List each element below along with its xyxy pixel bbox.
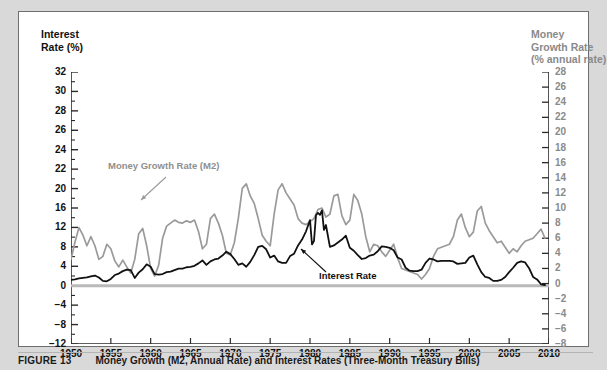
right-tick-12: 12: [555, 187, 589, 198]
left-tick-0: 0: [32, 280, 66, 291]
right-tick-10: 10: [555, 202, 589, 213]
axis-group: [71, 72, 549, 344]
right-tick--6: −6: [555, 323, 589, 334]
right-tick--2: −2: [555, 293, 589, 304]
figure-container: Interest Rate (%) Money Growth Rate (% a…: [0, 0, 607, 370]
left-tick-24: 24: [32, 144, 66, 155]
right-tick-0: 0: [555, 278, 589, 289]
left-tick-26: 26: [32, 124, 66, 135]
left-tick--8: −8: [32, 319, 66, 330]
plot-svg: [71, 72, 549, 344]
left-tick-22: 22: [32, 163, 66, 174]
right-tick-20: 20: [555, 126, 589, 137]
right-tick--4: −4: [555, 308, 589, 319]
right-tick-28: 28: [555, 66, 589, 77]
right-tick-22: 22: [555, 111, 589, 122]
annotation-interest-rate: Interest Rate: [319, 270, 377, 281]
right-tick-18: 18: [555, 142, 589, 153]
arrow-money-growth: [141, 177, 166, 200]
left-tick-8: 8: [32, 241, 66, 252]
figure-caption: FIGURE 13Money Growth (M2, Annual Rate) …: [18, 355, 593, 366]
right-tick-14: 14: [555, 172, 589, 183]
right-tick-4: 4: [555, 247, 589, 258]
figure-caption-text: Money Growth (M2, Annual Rate) and Inter…: [95, 355, 479, 366]
right-tick-6: 6: [555, 232, 589, 243]
left-tick-30: 30: [32, 85, 66, 96]
right-tick-16: 16: [555, 157, 589, 168]
left-tick-16: 16: [32, 202, 66, 213]
left-axis-title: Interest Rate (%): [41, 28, 83, 53]
right-axis-title: Money Growth Rate (% annual rate): [531, 28, 606, 66]
chart-panel: Interest Rate (%) Money Growth Rate (% a…: [18, 11, 589, 347]
right-tick-26: 26: [555, 81, 589, 92]
left-tick-12: 12: [32, 221, 66, 232]
left-tick-4: 4: [32, 260, 66, 271]
left-tick--4: −4: [32, 299, 66, 310]
arrow-interest-rate: [301, 249, 326, 272]
series-line-interest-rate: [71, 210, 545, 285]
left-tick-28: 28: [32, 105, 66, 116]
caption-divider: [18, 352, 593, 353]
right-tick-8: 8: [555, 217, 589, 228]
left-tick-32: 32: [32, 66, 66, 77]
left-tick-20: 20: [32, 183, 66, 194]
right-tick-24: 24: [555, 96, 589, 107]
plot-area: [71, 72, 549, 344]
right-tick-2: 2: [555, 262, 589, 273]
annotation-money-growth: Money Growth Rate (M2): [108, 160, 219, 171]
figure-caption-label: FIGURE 13: [18, 355, 71, 366]
